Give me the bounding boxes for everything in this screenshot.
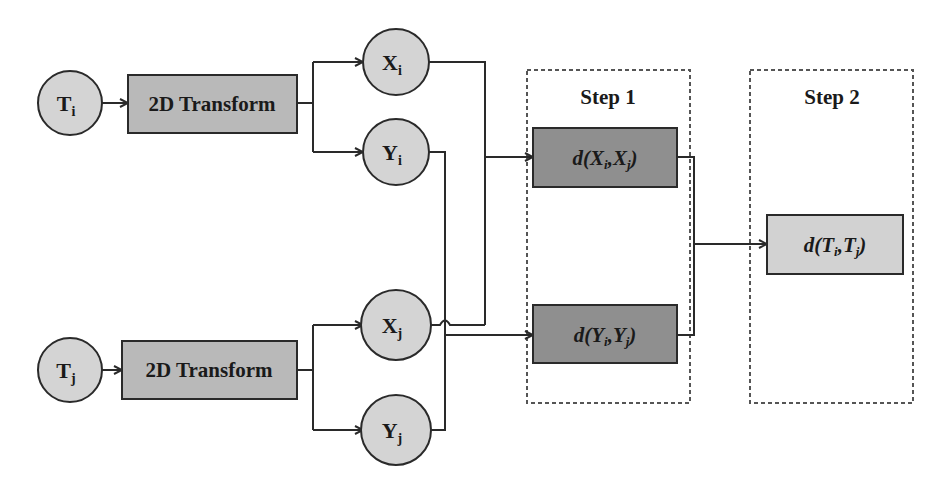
distance-box-y: d(Yi,Yj) bbox=[533, 305, 677, 363]
component-node-yi: Yi bbox=[363, 119, 429, 185]
distance-box-t: d(Ti,Tj) bbox=[767, 215, 903, 274]
component-node-xj: Xj bbox=[361, 290, 431, 360]
svg-text:2D Transform: 2D Transform bbox=[149, 92, 276, 116]
diagram-canvas: Step 1 Step 2 Ti Tj bbox=[0, 0, 951, 493]
input-node-ti: Ti bbox=[38, 71, 102, 135]
component-node-yj: Yj bbox=[361, 395, 431, 465]
transform-box-top: 2D Transform bbox=[128, 75, 297, 133]
component-node-xi: Xi bbox=[363, 29, 429, 95]
step-1-title: Step 1 bbox=[580, 85, 635, 109]
input-node-tj: Tj bbox=[38, 338, 102, 402]
svg-text:2D Transform: 2D Transform bbox=[146, 358, 273, 382]
transform-box-bottom: 2D Transform bbox=[122, 341, 297, 399]
step-2-title: Step 2 bbox=[804, 85, 859, 109]
distance-box-x: d(Xi,Xj) bbox=[533, 128, 677, 187]
